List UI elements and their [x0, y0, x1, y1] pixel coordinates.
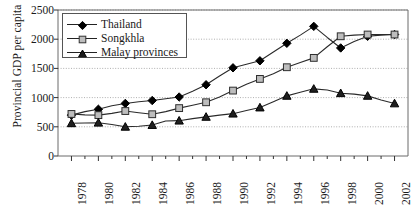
legend-swatch-malay-provinces [67, 47, 97, 57]
data-point-marker-square [149, 111, 156, 118]
data-point-marker-square [257, 76, 264, 83]
open-square-icon [78, 35, 87, 44]
data-point-marker-square [364, 31, 371, 38]
filled-triangle-icon [78, 49, 87, 58]
data-point-marker-square [176, 105, 183, 112]
data-point-marker-triangle [310, 85, 318, 93]
data-point-marker-square [122, 108, 129, 115]
data-point-marker-square [337, 33, 344, 40]
data-point-marker-diamond [121, 99, 129, 107]
legend-swatch-songkhla [67, 33, 97, 43]
data-point-marker-diamond [283, 39, 291, 47]
legend-label-songkhla: Songkhla [101, 32, 144, 44]
filled-diamond-icon [78, 21, 87, 30]
chart-figure: Provincial GDP per capita 05001000150020… [0, 0, 418, 222]
data-point-marker-square [391, 31, 398, 38]
legend-item-songkhla: Songkhla [67, 31, 144, 45]
legend-swatch-thailand [67, 19, 97, 29]
data-point-marker-square [310, 54, 317, 61]
legend-item-thailand: Thailand [67, 17, 142, 31]
legend-label-malay-provinces: Malay provinces [101, 46, 178, 58]
chart-legend: Thailand Songkhla Malay provinces [62, 13, 187, 58]
data-point-marker-square [68, 111, 75, 118]
data-point-marker-diamond [175, 93, 183, 101]
data-point-marker-square [203, 99, 210, 106]
data-point-marker-diamond [256, 57, 264, 65]
data-point-marker-diamond [202, 81, 210, 89]
legend-label-thailand: Thailand [101, 18, 142, 30]
legend-item-malay-provinces: Malay provinces [67, 45, 178, 59]
data-point-marker-square [283, 64, 290, 71]
series-line [71, 89, 394, 127]
data-point-marker-triangle [256, 103, 264, 111]
data-point-marker-square [230, 87, 237, 94]
data-point-marker-diamond [229, 64, 237, 72]
